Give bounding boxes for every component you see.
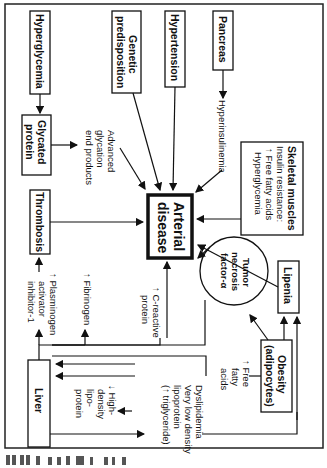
svg-text:inhibitor-1: inhibitor-1 (26, 281, 37, 323)
svg-text:Advanced: Advanced (106, 130, 117, 172)
svg-text:Pancreas: Pancreas (217, 16, 229, 63)
node-arterial-disease: Arterial disease (148, 195, 192, 258)
svg-text:end products: end products (84, 130, 95, 185)
svg-text:protein: protein (140, 295, 151, 324)
label-fibrinogen: ↑ Fibrinogen (82, 273, 93, 325)
svg-text:Obesity: Obesity (276, 355, 288, 394)
svg-text:disease: disease (155, 202, 171, 254)
svg-text:Liver: Liver (33, 388, 45, 413)
label-hyperinsulinemia: Hyperinsulinemia (217, 100, 228, 174)
svg-text:Hyperglycemia: Hyperglycemia (34, 14, 46, 89)
node-hyperglycemia: Hyperglycemia (30, 11, 50, 94)
svg-text:Glycated: Glycated (36, 120, 48, 164)
svg-text:Hypertension: Hypertension (169, 14, 181, 81)
svg-text:↓ High-: ↓ High- (107, 385, 118, 415)
caption-fragment (6, 455, 126, 465)
svg-text:↑ C-reactive: ↑ C-reactive (151, 287, 162, 338)
label-free-fatty-acids: ↑ Free fatty acids (219, 360, 252, 390)
label-hdl: ↓ High- density lipo- protein (74, 385, 118, 419)
svg-text:fatty: fatty (230, 368, 241, 386)
node-pancreas: Pancreas (213, 11, 233, 70)
node-glycated-protein: Glycated protein (22, 115, 51, 175)
node-liver: Liver (28, 360, 50, 447)
node-obesity: Obesity (adipocytes) (261, 340, 292, 412)
svg-text:activator: activator (37, 281, 48, 317)
label-crp: ↑ C-reactive protein (140, 287, 162, 338)
svg-text:protein: protein (74, 389, 85, 418)
node-hypertension: Hypertension (165, 11, 185, 87)
svg-text:↑ Fibrinogen: ↑ Fibrinogen (82, 273, 93, 325)
svg-text:Insulin resistance:: Insulin resistance: (275, 146, 286, 222)
svg-text:Skeletal muscles: Skeletal muscles (286, 146, 298, 231)
svg-text:↑ Plasminogen: ↑ Plasminogen (48, 273, 59, 335)
svg-text:Hyperglycemia: Hyperglycemia (253, 152, 264, 216)
svg-text:(↑ triglyceride): (↑ triglyceride) (161, 385, 172, 445)
svg-text:Hyperinsulinemia: Hyperinsulinemia (217, 100, 228, 174)
svg-text:↑ Free fatty acids: ↑ Free fatty acids (264, 148, 275, 221)
label-dyslipidemia: Dyslipidemia Very low density lipoprotei… (161, 385, 205, 454)
svg-text:glycation: glycation (95, 130, 106, 168)
svg-text:↑ Free: ↑ Free (241, 360, 252, 387)
label-pai-1: ↑ Plasminogen activator inhibitor-1 (26, 273, 59, 335)
svg-text:density: density (96, 389, 107, 419)
svg-text:Very low density: Very low density (183, 385, 194, 454)
label-advanced-glycation: Advanced glycation end products (84, 130, 117, 185)
svg-text:Dyslipidemia: Dyslipidemia (194, 385, 205, 440)
svg-text:acids: acids (219, 368, 230, 390)
svg-text:Lipenia: Lipenia (282, 267, 294, 304)
svg-text:(adipocytes): (adipocytes) (264, 345, 276, 407)
node-genetic-predisposition: Genetic predisposition (112, 11, 141, 93)
node-lipenia: Lipenia (278, 261, 299, 313)
node-thrombosis: Thrombosis (30, 190, 50, 254)
svg-text:protein: protein (24, 124, 36, 160)
svg-text:Arterial: Arterial (171, 202, 187, 251)
svg-text:necrosis: necrosis (230, 252, 241, 291)
svg-text:lipo-: lipo- (85, 389, 96, 407)
svg-text:lipoprotein: lipoprotein (172, 385, 183, 429)
diagram-canvas: Hyperglycemia Genetic predisposition Hyp… (0, 0, 327, 468)
node-skeletal-muscles: Skeletal muscles Insulin resistance: ↑ F… (241, 142, 303, 235)
svg-text:Thrombosis: Thrombosis (34, 192, 46, 252)
svg-text:predisposition: predisposition (115, 16, 127, 88)
node-tnf-alpha: Tumor necrosis factor-α (200, 237, 268, 305)
svg-text:Genetic: Genetic (127, 35, 139, 74)
